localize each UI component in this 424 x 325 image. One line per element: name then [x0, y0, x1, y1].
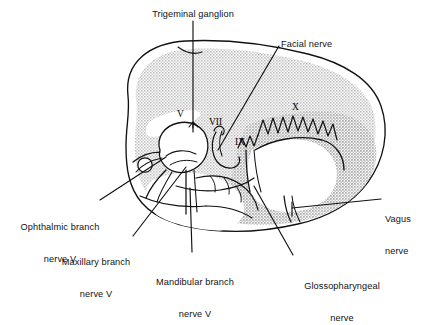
- label-glossopharyngeal-nerve-line2: nerve: [288, 313, 396, 324]
- trigeminal-ganglion-shape: [159, 122, 208, 172]
- numeral-vii: VII: [209, 117, 222, 127]
- numeral-x: X: [292, 102, 299, 112]
- label-vagus-nerve-line2: nerve: [385, 246, 424, 257]
- label-ophthalmic-branch-line1: Ophthalmic branch: [6, 222, 114, 233]
- label-vagus-nerve: Vagus nerve: [385, 193, 424, 278]
- numeral-v: V: [177, 109, 184, 119]
- label-maxillary-branch: Maxillary branch nerve V: [44, 236, 148, 321]
- label-glossopharyngeal-nerve: Glossopharyngeal nerve: [288, 260, 396, 325]
- label-trigeminal-ganglion: Trigeminal ganglion: [130, 9, 256, 20]
- label-maxillary-branch-line1: Maxillary branch: [44, 257, 148, 268]
- label-maxillary-branch-line2: nerve V: [44, 289, 148, 300]
- label-glossopharyngeal-nerve-line1: Glossopharyngeal: [288, 281, 396, 292]
- numeral-ix: IX: [235, 137, 245, 147]
- label-facial-nerve: Facial nerve: [281, 39, 377, 50]
- label-mandibular-branch: Mandibular branch nerve V: [139, 256, 251, 325]
- label-vagus-nerve-line1: Vagus: [385, 214, 424, 225]
- label-mandibular-branch-line1: Mandibular branch: [139, 277, 251, 288]
- label-mandibular-branch-line2: nerve V: [139, 309, 251, 320]
